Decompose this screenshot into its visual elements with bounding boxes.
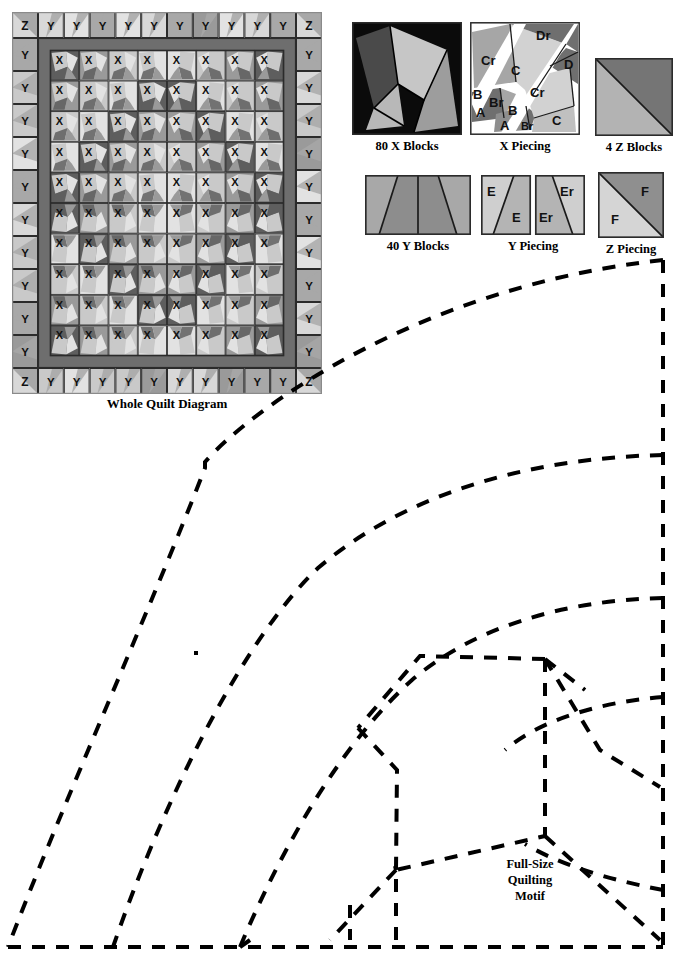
motif-arc-3 [240, 598, 663, 947]
figure-y-blocks: 40 Y Blocks [365, 175, 471, 235]
quilt-x-block-label: X [56, 84, 64, 96]
border-y-top-label: Y [150, 20, 158, 32]
y-piecing-swatch [481, 175, 585, 235]
quilt-x-block-label: X [202, 84, 210, 96]
x-block-swatch [352, 22, 462, 135]
figure-y-piecing: E E Er Er Y Piecing [481, 175, 585, 235]
quilt-x-block-label: X [85, 237, 93, 249]
motif-label-line-3: Motif [470, 888, 590, 904]
quilt-x-block-label: X [114, 237, 122, 249]
motif-label-line-1: Full-Size [470, 856, 590, 872]
z-block-swatch [595, 58, 673, 136]
motif-arc-1 [8, 260, 663, 947]
quilt-x-block-label: X [173, 84, 181, 96]
border-y-top-label: Y [73, 20, 81, 32]
border-y-top-label: Y [253, 20, 261, 32]
quilt-x-block-label: X [260, 176, 268, 188]
quilting-motif-label: Full-Size Quilting Motif [470, 856, 590, 904]
quilt-x-block-label: X [173, 115, 181, 127]
motif-inner-upper-left [358, 656, 545, 728]
quilt-x-block-label: X [202, 54, 210, 66]
quilt-x-block-label: X [231, 207, 239, 219]
quilt-x-block-label: X [143, 207, 151, 219]
border-y-left-label: Y [21, 214, 29, 226]
quilt-x-block-label: X [260, 237, 268, 249]
motif-inner-lower-spoke-a [330, 870, 396, 940]
page-root: ZZZZYYYYYYYYYYYYYYYYYYYYYYYYYYYYYYYYYYYY… [0, 0, 693, 957]
border-y-top-label: Y [47, 20, 55, 32]
quilt-x-block-label: X [202, 207, 210, 219]
quilt-x-block-label: X [56, 237, 64, 249]
motif-inner-mid-spoke [358, 728, 397, 870]
border-y-top-label: Y [279, 20, 287, 32]
figure-z-piecing: F F Z Piecing [598, 172, 664, 238]
z-piecing-swatch [598, 172, 664, 238]
quilting-motif-svg [0, 250, 693, 957]
quilt-x-block-label: X [85, 207, 93, 219]
quilt-x-block-label: X [173, 237, 181, 249]
figure-x-blocks: 80 X Blocks [352, 22, 462, 135]
quilt-x-block-label: X [173, 146, 181, 158]
border-y-top-label: Y [99, 20, 107, 32]
quilt-x-block-label: X [231, 84, 239, 96]
border-y-right-label: Y [305, 82, 313, 94]
border-y-left-label: Y [21, 115, 29, 127]
quilt-x-block-label: X [202, 176, 210, 188]
y-block-swatch [365, 175, 471, 235]
quilt-x-block-label: X [114, 84, 122, 96]
quilt-x-block-label: X [56, 146, 64, 158]
quilt-x-block-label: X [56, 54, 64, 66]
quilt-x-block-label: X [85, 84, 93, 96]
border-y-right-label: Y [305, 115, 313, 127]
corner-z-tl-label: Z [21, 19, 28, 33]
quilt-x-block-label: X [56, 176, 64, 188]
border-y-top-label: Y [176, 20, 184, 32]
quilt-x-block-label: X [143, 115, 151, 127]
quilt-x-block-label: X [56, 207, 64, 219]
quilt-x-block-label: X [85, 115, 93, 127]
quilt-x-block-label: X [143, 54, 151, 66]
border-y-right-label: Y [305, 49, 313, 61]
figure-x-piecing: Dr Cr C D B Br A B A Br Cr C X Piecing [470, 22, 580, 135]
quilt-x-block-label: X [143, 237, 151, 249]
quilt-x-block-label: X [260, 115, 268, 127]
quilt-x-block-label: X [231, 237, 239, 249]
border-y-left-label: Y [21, 49, 29, 61]
border-y-left-label: Y [21, 181, 29, 193]
quilt-x-block-label: X [231, 176, 239, 188]
quilting-motif [0, 250, 693, 957]
border-y-right-label: Y [305, 148, 313, 160]
quilt-x-block-label: X [85, 146, 93, 158]
quilt-x-block-label: X [114, 54, 122, 66]
quilt-x-block-label: X [85, 54, 93, 66]
quilt-x-block-label: X [202, 115, 210, 127]
quilt-x-block-label: X [260, 207, 268, 219]
quilt-x-block-label: X [260, 146, 268, 158]
quilt-x-block-label: X [85, 176, 93, 188]
x-piecing-swatch [470, 22, 580, 135]
motif-label-line-2: Quilting [470, 872, 590, 888]
quilt-x-block-label: X [260, 54, 268, 66]
motif-inner-short-right [545, 659, 585, 690]
figure-z-blocks: 4 Z Blocks [595, 58, 673, 136]
quilt-x-block-label: X [231, 115, 239, 127]
quilt-x-block-label: X [173, 176, 181, 188]
quilt-x-block-label: X [114, 146, 122, 158]
quilt-x-block-label: X [56, 115, 64, 127]
figure-caption: 4 Z Blocks [595, 140, 673, 155]
corner-z-tr-label: Z [305, 19, 312, 33]
quilt-x-block-label: X [143, 84, 151, 96]
figure-caption: 80 X Blocks [352, 139, 462, 154]
motif-inner-upper-right [545, 659, 660, 787]
quilt-x-block-label: X [114, 115, 122, 127]
border-y-left-label: Y [21, 148, 29, 160]
quilt-x-block-label: X [143, 176, 151, 188]
quilt-x-block-label: X [231, 54, 239, 66]
quilt-x-block-label: X [260, 84, 268, 96]
quilt-x-block-label: X [202, 146, 210, 158]
quilt-x-block-label: X [231, 146, 239, 158]
border-y-top-label: Y [202, 20, 210, 32]
border-y-left-label: Y [21, 82, 29, 94]
quilt-x-block-label: X [173, 54, 181, 66]
border-y-top-label: Y [124, 20, 132, 32]
